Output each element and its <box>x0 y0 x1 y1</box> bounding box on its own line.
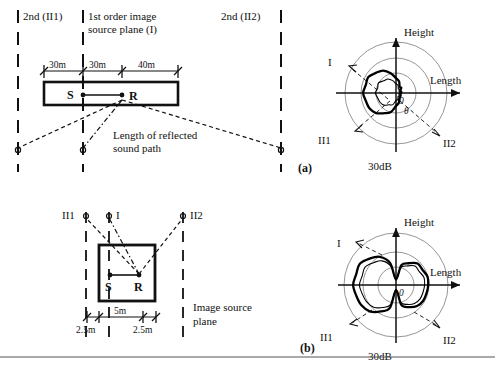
panel-a-angle-label: θ <box>404 106 409 116</box>
panel-a-label: (a) <box>298 161 312 175</box>
panel-b-order-label-I: I <box>337 237 341 249</box>
panel-b-dimension-3: 2.5m <box>133 325 153 335</box>
panel-a-source-label: S <box>67 88 74 102</box>
panel-b-arrow-II2 <box>433 320 440 328</box>
panel-a-left-plane-label: 2nd (II1) <box>23 10 63 23</box>
panel-b-indicator-II2 <box>414 312 438 326</box>
panel-a-source-point <box>81 93 86 98</box>
panel-b-source-label: S <box>105 280 112 294</box>
panel-b-polar-plot: Height Length 30dB 0 I II1 II2 <box>320 216 462 362</box>
panel-a-right-plane-label: 2nd (II2) <box>221 10 261 23</box>
panel-b-plan: II1 I II2 S R <box>62 209 252 338</box>
panel-b-axis-length-label: Length <box>430 266 462 278</box>
panel-a-scale-label: 30dB <box>368 160 392 172</box>
panel-b-axis-height-label: Height <box>404 216 434 228</box>
panel-a-indicator-II2 <box>400 101 437 133</box>
panel-b-label: (b) <box>300 341 315 355</box>
panel-a-axis-length-label: Length <box>430 74 462 86</box>
panel-b-dimension-1: 2.5m <box>76 325 96 335</box>
panel-a-plan: 2nd (II1) 1st order image source plane (… <box>15 10 283 172</box>
panel-a-annotation-line1: Length of reflected <box>113 129 198 141</box>
figure-container: 2nd (II1) 1st order image source plane (… <box>0 0 495 369</box>
panel-b-indicator-I <box>358 243 382 255</box>
panel-b-annotation-line1: Image source <box>193 301 252 313</box>
panel-a-room-outline <box>44 82 178 105</box>
panel-a-dimension-3: 40m <box>138 60 156 70</box>
panel-a-annotation-line2: sound path <box>113 142 161 154</box>
panel-a-center-plane-label-line1: 1st order image <box>88 10 157 22</box>
panel-a-reflected-path-II1 <box>18 100 122 148</box>
panel-b-receiver-label: R <box>134 280 143 294</box>
panel-a-order-label-II1: II1 <box>318 134 331 146</box>
panel-a-receiver-point <box>120 93 125 98</box>
panel-a-order-label-II2: II2 <box>443 137 456 149</box>
panel-a-center-plane-label-line2: source plane (I) <box>88 23 157 36</box>
panel-a-indicator-I <box>352 69 388 99</box>
panel-b-left-plane-label: II1 <box>62 209 75 221</box>
panel-b-scale-label: 30dB <box>368 350 392 362</box>
figure-svg: 2nd (II1) 1st order image source plane (… <box>0 0 495 369</box>
panel-a-dimension-2: 30m <box>89 60 107 70</box>
panel-b-arrow-II1 <box>350 319 358 326</box>
panel-a-axis-height-label: Height <box>404 26 434 38</box>
panel-a-receiver-label: R <box>129 89 138 103</box>
panel-b-order-label-II1: II1 <box>320 331 333 343</box>
panel-b-center-plane-label: I <box>116 209 120 221</box>
panel-b-order-label-II2: II2 <box>443 334 456 346</box>
panel-b-right-plane-label: II2 <box>190 209 203 221</box>
panel-a-order-label-I: I <box>328 56 332 68</box>
panel-b-annotation-line2: plane <box>193 315 217 327</box>
panel-a-dimension-1: 30m <box>49 60 67 70</box>
panel-b-source-point <box>108 273 113 278</box>
panel-a-polar-plot: Height Length 30dB 0 θ I II1 II2 <box>318 26 462 172</box>
panel-b-dimension-2: 5m <box>114 306 127 316</box>
